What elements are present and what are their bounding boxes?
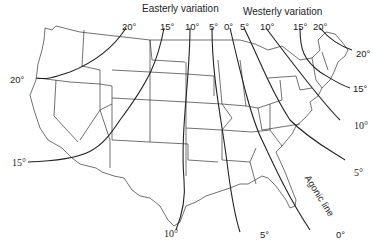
- label-top-w10: 10°: [260, 22, 274, 32]
- label-top-e10: 10°: [185, 22, 199, 32]
- isogonic-line-w10: [266, 28, 340, 120]
- label-bottom-0: 0°: [336, 230, 345, 240]
- label-west-15: 15°: [12, 158, 26, 168]
- label-top-e15: 15°: [160, 22, 174, 32]
- label-bottom-5: 5°: [260, 230, 269, 240]
- isogonic-lines: [28, 28, 352, 232]
- westerly-variation-header: Westerly variation: [243, 7, 322, 17]
- easterly-variation-header: Easterly variation: [142, 4, 219, 14]
- label-east-20: 20°: [356, 49, 370, 59]
- label-top-w20: 20°: [313, 22, 327, 32]
- label-top-zero: 0°: [224, 22, 233, 32]
- label-west-20: 20°: [10, 75, 24, 85]
- label-east-10: 10°: [354, 121, 368, 131]
- label-east-5: 5°: [354, 168, 363, 178]
- label-top-e5: 5°: [209, 22, 218, 32]
- label-top-e20: 20°: [122, 22, 136, 32]
- label-top-w15: 15°: [293, 22, 307, 32]
- label-east-15: 15°: [353, 84, 367, 94]
- isogonic-line-e10: [176, 28, 190, 230]
- label-bottom-10: 10°: [164, 229, 178, 239]
- isogonic-line-w5: [244, 28, 345, 160]
- label-top-w5: 5°: [240, 22, 249, 32]
